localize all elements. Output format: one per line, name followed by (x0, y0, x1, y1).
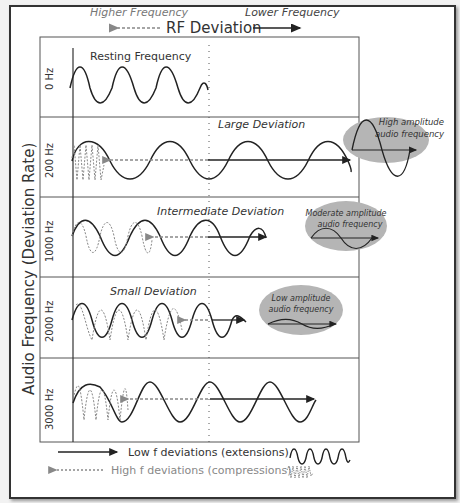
rf-deviation-title: RF Deviation (166, 19, 262, 37)
bubble-low-line1: Low amplitude (272, 294, 331, 303)
y-axis-label: Audio Frequency (Deviation Rate) (20, 143, 38, 395)
freq-label-2000: 2000 Hz (44, 301, 55, 342)
row-title-resting: Resting Frequency (90, 50, 192, 63)
freq-label-3000: 3000 Hz (44, 389, 55, 430)
fm-deviation-diagram: Higher Frequency Lower Frequency RF Devi… (0, 0, 460, 503)
lower-frequency-label: Lower Frequency (245, 6, 340, 19)
higher-frequency-label: Higher Frequency (90, 6, 188, 19)
row-title-intermediate: Intermediate Deviation (157, 205, 284, 218)
resting-wave (70, 67, 208, 103)
bubble-high-line2: audio frequency (375, 129, 445, 139)
row-title-small: Small Deviation (110, 285, 197, 298)
row-title-large: Large Deviation (218, 118, 305, 131)
grid-box (40, 37, 359, 442)
legend-low-label: Low f deviations (extensions) (128, 446, 289, 459)
deviation-3000-wave (73, 382, 316, 422)
bubble-low-line2: audio frequency (268, 305, 333, 314)
bubble-moderate-line2: audio frequency (317, 220, 382, 229)
intermediate-deviation-wave (72, 220, 266, 255)
bubble-high-line1: High amplitude (379, 117, 444, 127)
legend-extension-wave-icon (290, 449, 350, 464)
freq-label-1000: 1000 Hz (44, 221, 55, 262)
freq-label-0: 0 Hz (44, 68, 55, 90)
legend-high-label: High f deviations (compressions) (111, 464, 292, 477)
bubble-moderate-line1: Moderate amplitude (305, 209, 386, 218)
freq-label-200: 200 Hz (44, 143, 55, 178)
